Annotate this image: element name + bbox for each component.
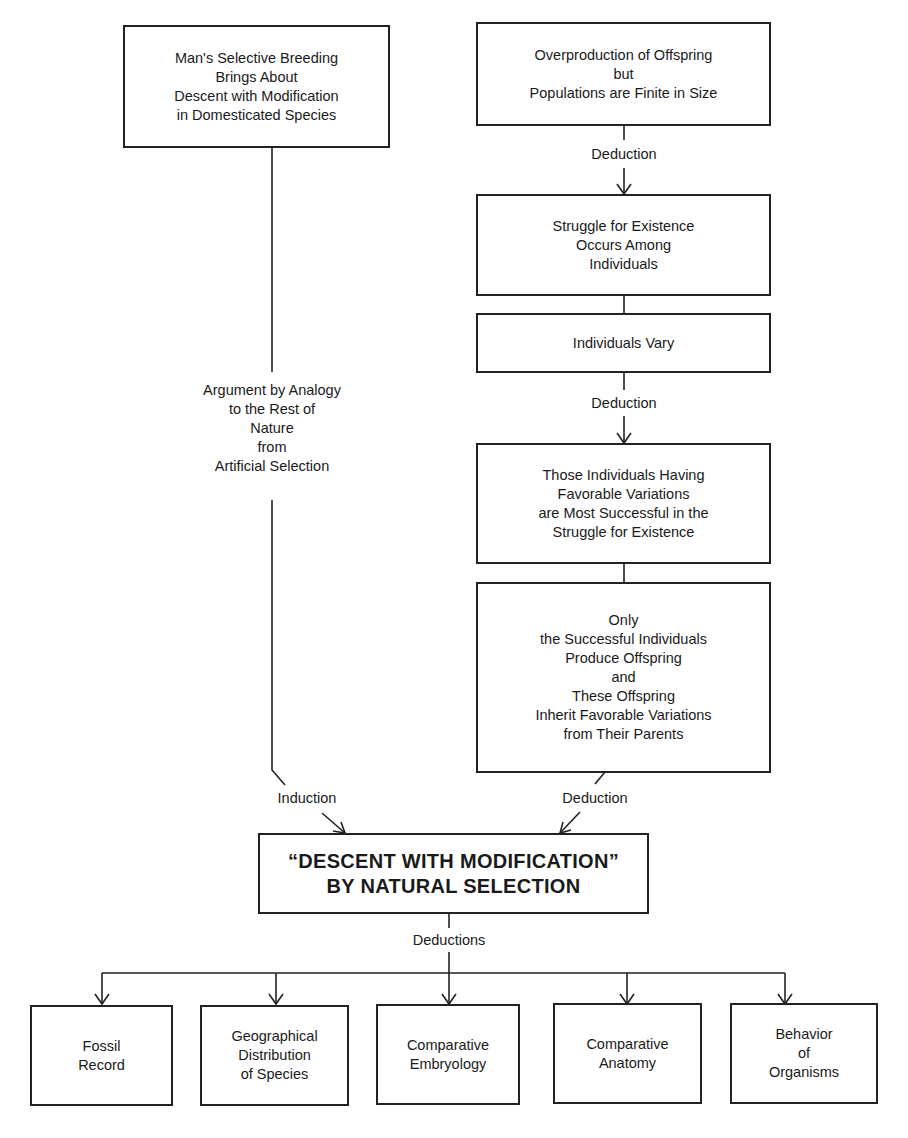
conclusion-natural-selection-box: “DESCENT WITH MODIFICATION” BY NATURAL S… [258, 833, 649, 914]
box-text: BY NATURAL SELECTION [327, 874, 581, 899]
box-text: of [798, 1044, 810, 1063]
box-text: Struggle for Existence [553, 217, 695, 236]
label-text: Artificial Selection [172, 457, 372, 476]
box-text: from Their Parents [564, 725, 684, 744]
evidence-comparative-anatomy-box: Comparative Anatomy [553, 1003, 702, 1104]
box-text: Individuals [589, 255, 658, 274]
box-text: Overproduction of Offspring [535, 46, 713, 65]
inherit-variations-box: Only the Successful Individuals Produce … [476, 582, 771, 773]
evidence-behavior-of-organisms-box: Behavior of Organisms [730, 1003, 878, 1104]
induction-label: Induction [262, 789, 352, 808]
box-text: Inherit Favorable Variations [535, 706, 711, 725]
box-text: the Successful Individuals [540, 630, 707, 649]
label-text: Argument by Analogy [172, 381, 372, 400]
individuals-vary-box: Individuals Vary [476, 313, 771, 373]
box-text: of Species [241, 1065, 309, 1084]
box-text: Geographical [231, 1027, 317, 1046]
premise-overproduction-box: Overproduction of Offspring but Populati… [476, 22, 771, 126]
box-text: Those Individuals Having [542, 466, 704, 485]
box-text: Distribution [238, 1046, 311, 1065]
box-text: Struggle for Existence [553, 523, 695, 542]
box-text: in Domesticated Species [177, 106, 337, 125]
premise-selective-breeding-box: Man's Selective Breeding Brings About De… [123, 25, 390, 148]
deduction-label-3: Deduction [545, 789, 645, 808]
deduction-label-1: Deduction [574, 145, 674, 164]
box-text: Comparative [407, 1036, 489, 1055]
analogy-connector-lower [272, 500, 285, 785]
box-text: are Most Successful in the [538, 504, 708, 523]
evidence-comparative-embryology-box: Comparative Embryology [376, 1004, 520, 1105]
evidence-fossil-record-box: Fossil Record [30, 1005, 173, 1106]
box-text: Record [78, 1056, 125, 1075]
box-text: Occurs Among [576, 236, 671, 255]
label-text: Nature [172, 419, 372, 438]
box-text: and [611, 668, 635, 687]
box-text: Anatomy [599, 1054, 656, 1073]
deductions-label: Deductions [394, 931, 504, 950]
analogy-label: Argument by Analogy to the Rest of Natur… [172, 381, 372, 476]
deduction-connector-upper [595, 772, 605, 784]
box-text: Organisms [769, 1063, 839, 1082]
box-text: Embryology [410, 1055, 487, 1074]
box-text: Behavior [775, 1025, 832, 1044]
favorable-variations-box: Those Individuals Having Favorable Varia… [476, 443, 771, 564]
box-text: Brings About [215, 68, 297, 87]
box-text: Man's Selective Breeding [175, 49, 338, 68]
connector-lines [0, 0, 908, 1138]
evidence-geographical-distribution-box: Geographical Distribution of Species [200, 1005, 349, 1106]
deduction-label-2: Deduction [574, 394, 674, 413]
box-text: Only [609, 611, 639, 630]
label-text: to the Rest of [172, 400, 372, 419]
label-text: from [172, 438, 372, 457]
box-text: “DESCENT WITH MODIFICATION” [288, 849, 619, 874]
box-text: Produce Offspring [565, 649, 682, 668]
box-text: Comparative [586, 1035, 668, 1054]
box-text: These Offspring [572, 687, 675, 706]
struggle-for-existence-box: Struggle for Existence Occurs Among Indi… [476, 194, 771, 296]
box-text: Descent with Modification [174, 87, 338, 106]
box-text: Populations are Finite in Size [530, 84, 718, 103]
box-text: Individuals Vary [573, 334, 674, 353]
box-text: Favorable Variations [558, 485, 690, 504]
box-text: Fossil [83, 1037, 121, 1056]
box-text: but [613, 65, 633, 84]
